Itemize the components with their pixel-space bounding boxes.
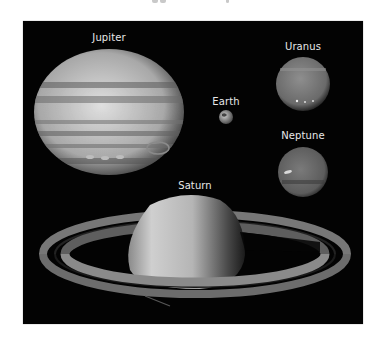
planets-illustration — [23, 21, 363, 324]
earth-label: Earth — [212, 96, 239, 108]
jupiter-planet — [30, 49, 190, 175]
neptune-planet — [278, 147, 328, 197]
saturn-planet — [128, 195, 245, 289]
earth-planet — [219, 110, 233, 124]
jupiter-label: Jupiter — [92, 32, 125, 44]
uranus-planet — [276, 57, 330, 111]
uranus-label: Uranus — [285, 41, 321, 53]
saturn-ring-underside — [145, 296, 170, 306]
saturn-label: Saturn — [178, 180, 212, 192]
planets-image-panel: Jupiter Earth Uranus Neptune Saturn — [23, 21, 363, 324]
neptune-label: Neptune — [281, 130, 324, 142]
cropped-caption-fragment — [0, 0, 380, 6]
